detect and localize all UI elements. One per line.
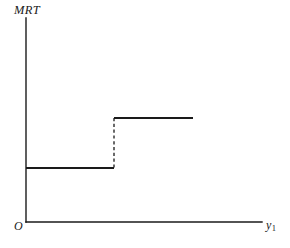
plot-canvas [0,0,290,248]
origin-label: O [14,220,23,232]
x-axis-label-subscript: 1 [272,223,276,233]
mrt-step-function-figure: MRT O y1 [0,0,290,248]
x-axis-label: y1 [266,219,276,233]
y-axis-label: MRT [14,4,40,17]
x-axis-label-base: y [266,218,271,232]
